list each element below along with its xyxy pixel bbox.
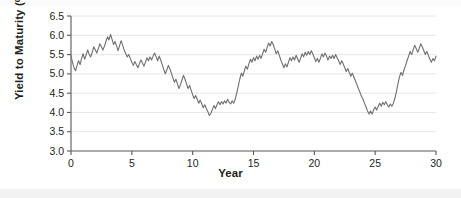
y-tick-label: 3.0 — [49, 145, 64, 157]
x-axis-title: Year — [0, 167, 461, 179]
y-tick-label: 4.5 — [49, 87, 64, 99]
chart-figure: Yield to Maturity (%) 3.03.54.04.55.05.5… — [0, 0, 461, 198]
y-tick-label: 3.5 — [49, 125, 64, 137]
y-tick-label: 4.0 — [49, 106, 64, 118]
y-tick-label: 6.0 — [49, 29, 64, 41]
y-tick-group: 3.03.54.04.55.05.56.06.5 — [49, 10, 71, 157]
y-tick-label: 5.0 — [49, 67, 64, 79]
gridlines-group — [71, 16, 436, 132]
figure-bottom-band — [0, 189, 461, 198]
y-tick-label: 5.5 — [49, 48, 64, 60]
yield-curve-line — [71, 35, 436, 116]
y-tick-label: 6.5 — [49, 10, 64, 22]
